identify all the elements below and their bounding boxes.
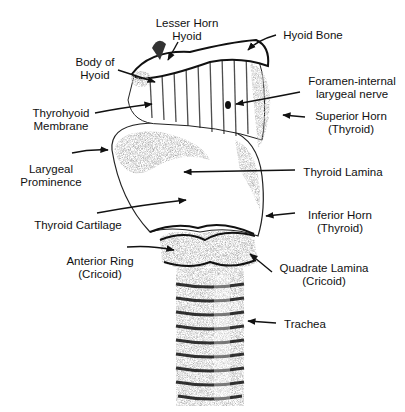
label-line: Thyroid Lamina <box>296 166 390 179</box>
cricoid-shape <box>160 231 258 268</box>
label-line: Lesser Horn <box>152 17 222 30</box>
label-line: (Thyroid) <box>298 222 382 235</box>
label-line: Inferior Horn <box>298 209 382 222</box>
larynx-diagram: Lesser HornHyoidHyoid BoneBody ofHyoidFo… <box>0 0 405 412</box>
label-line: (Thyroid) <box>309 123 393 136</box>
label-foramen-internal-larygeal-nerve: Foramen-internallarygeal nerve <box>302 75 402 101</box>
label-line: (Cricoid) <box>275 275 373 288</box>
larynx-illustration <box>0 0 405 412</box>
label-line: Quadrate Lamina <box>275 262 373 275</box>
foramen-dot <box>225 101 231 109</box>
label-line: Body of <box>70 56 120 69</box>
label-line: Hyoid Bone <box>278 29 348 42</box>
label-line: larygeal nerve <box>302 88 402 101</box>
label-thyrohyoid-membrane: ThyrohyoidMembrane <box>28 107 94 133</box>
label-line: Thyroid Cartilage <box>28 219 128 232</box>
label-body-of-hyoid: Body ofHyoid <box>70 56 120 82</box>
label-line: Prominence <box>16 176 86 189</box>
label-line: (Cricoid) <box>60 268 140 281</box>
label-inferior-horn-thyroid: Inferior Horn(Thyroid) <box>298 209 382 235</box>
label-line: Foramen-internal <box>302 75 402 88</box>
label-line: Hyoid <box>152 30 222 43</box>
label-hyoid-bone: Hyoid Bone <box>278 29 348 42</box>
label-larygeal-prominence: LarygealProminence <box>16 163 86 189</box>
label-line: Thyrohyoid <box>28 107 94 120</box>
label-line: Trachea <box>280 318 330 331</box>
label-quadrate-lamina-cricoid: Quadrate Lamina(Cricoid) <box>275 262 373 288</box>
label-anterior-ring-cricoid: Anterior Ring(Cricoid) <box>60 255 140 281</box>
label-lesser-horn-hyoid: Lesser HornHyoid <box>152 17 222 43</box>
label-thyroid-lamina: Thyroid Lamina <box>296 166 390 179</box>
thyroid-cartilage-shape <box>112 122 263 236</box>
label-thyroid-cartilage: Thyroid Cartilage <box>28 219 128 232</box>
label-line: Superior Horn <box>309 110 393 123</box>
label-line: Membrane <box>28 120 94 133</box>
label-line: Larygeal <box>16 163 86 176</box>
label-line: Anterior Ring <box>60 255 140 268</box>
label-line: Hyoid <box>70 69 120 82</box>
label-trachea: Trachea <box>280 318 330 331</box>
trachea-shape <box>176 268 244 406</box>
label-superior-horn-thyroid: Superior Horn(Thyroid) <box>309 110 393 136</box>
